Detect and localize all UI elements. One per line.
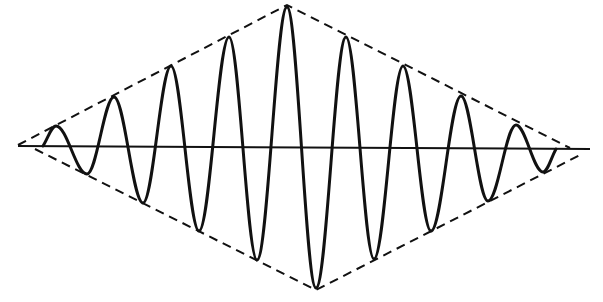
upper-envelope-dashed-line bbox=[18, 5, 570, 148]
wave-packet-diagram bbox=[0, 0, 603, 302]
